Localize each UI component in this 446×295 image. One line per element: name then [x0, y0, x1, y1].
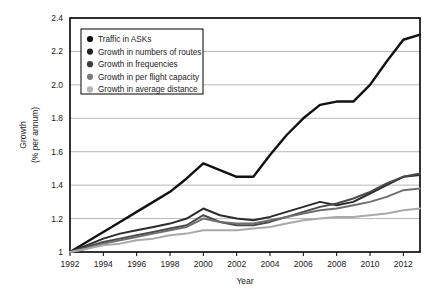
x-tick-label: 2000 — [194, 259, 213, 269]
x-tick-label: 1998 — [161, 259, 180, 269]
y-axis-title-line1: Growth — [18, 121, 28, 149]
legend-item-label: Growth in average distance — [98, 85, 198, 94]
x-tick-label: 2006 — [294, 259, 313, 269]
chart-legend: Traffic in ASKsGrowth in numbers of rout… — [81, 29, 203, 94]
y-axis-title-line2: (% per annum) — [30, 107, 40, 163]
x-tick-label: 2002 — [227, 259, 246, 269]
y-tick-label: 1.6 — [51, 147, 63, 157]
chart-container: 11.21.41.61.82.02.22.4 19921994199619982… — [0, 0, 446, 295]
legend-item-label: Growth in frequencies — [98, 60, 178, 69]
x-tick-label: 1992 — [61, 259, 80, 269]
x-tick-label: 2012 — [394, 259, 413, 269]
x-tick-label: 2010 — [361, 259, 380, 269]
y-tick-label: 1.8 — [51, 113, 63, 123]
legend-marker-icon — [87, 61, 93, 67]
legend-item-label: Growth in numbers of routes — [98, 48, 201, 57]
legend-marker-icon — [87, 36, 93, 42]
legend-marker-icon — [87, 49, 93, 55]
y-tick-label: 2.2 — [51, 46, 63, 56]
x-tick-label: 1994 — [94, 259, 113, 269]
legend-marker-icon — [87, 74, 93, 80]
y-tick-label: 2.4 — [51, 13, 63, 23]
y-tick-label: 2.0 — [51, 80, 63, 90]
line-chart: 11.21.41.61.82.02.22.4 19921994199619982… — [0, 0, 446, 295]
legend-marker-icon — [87, 86, 93, 92]
x-tick-label: 2008 — [327, 259, 346, 269]
legend-item-label: Traffic in ASKs — [98, 35, 151, 44]
x-axis-title: Year — [236, 276, 253, 286]
x-tick-label: 2004 — [261, 259, 280, 269]
legend-item-label: Growth in per flight capacity — [98, 73, 200, 82]
chart-background — [0, 0, 446, 295]
x-tick-label: 1996 — [127, 259, 146, 269]
y-tick-label: 1 — [58, 247, 63, 257]
y-tick-label: 1.4 — [51, 180, 63, 190]
y-tick-label: 1.2 — [51, 214, 63, 224]
